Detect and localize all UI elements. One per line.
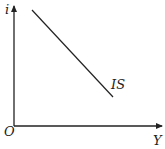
- is-curve-label: IS: [110, 77, 125, 92]
- x-axis-label: Y: [153, 133, 163, 148]
- is-curve-diagram: i O Y IS: [0, 0, 165, 149]
- origin-label: O: [4, 124, 15, 139]
- is-curve: [32, 10, 113, 97]
- y-axis-label: i: [5, 2, 9, 17]
